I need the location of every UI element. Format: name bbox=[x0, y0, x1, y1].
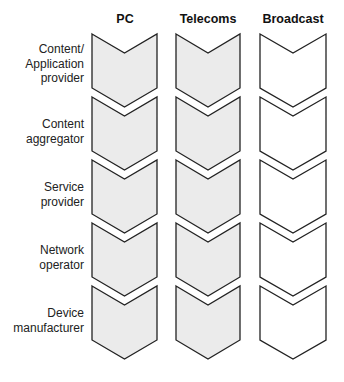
chevron-pc-row-1 bbox=[92, 34, 157, 107]
chevron-telecoms-row-4 bbox=[176, 223, 240, 296]
chevron-pc-row-4 bbox=[92, 223, 157, 296]
chevron-telecoms-row-3 bbox=[176, 160, 240, 233]
chevron-pc-row-5 bbox=[92, 286, 157, 359]
chevron-broadcast-row-2 bbox=[260, 97, 326, 170]
chevron-telecoms-row-2 bbox=[176, 97, 240, 170]
chevron-pc-row-2 bbox=[92, 97, 157, 170]
chevron-telecoms-row-1 bbox=[176, 34, 240, 107]
chevron-broadcast-row-4 bbox=[260, 223, 326, 296]
chevron-pc-row-3 bbox=[92, 160, 157, 233]
chevron-telecoms-row-5 bbox=[176, 286, 240, 359]
value-chain-chevron-grid bbox=[0, 0, 344, 382]
chevron-broadcast-row-3 bbox=[260, 160, 326, 233]
chevron-broadcast-row-5 bbox=[260, 286, 326, 359]
chevron-broadcast-row-1 bbox=[260, 34, 326, 107]
